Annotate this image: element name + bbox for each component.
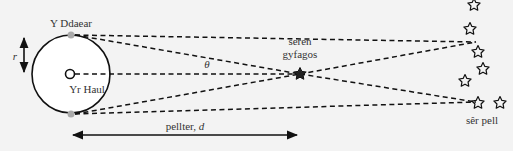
- distant-stars-label: sêr pell: [466, 114, 498, 126]
- nearby-star-label-line2: gyfagos: [283, 48, 318, 60]
- distant-stars: [459, 0, 506, 108]
- sun-label: Yr Haul: [69, 83, 105, 95]
- earth-label: Y Ddaear: [50, 17, 92, 29]
- sun-icon: [66, 70, 75, 79]
- star-icon: [472, 46, 484, 58]
- sight-lines: [75, 35, 476, 114]
- nearby-star-icon: [294, 68, 306, 80]
- nearby-star-label-line1: seren: [288, 35, 312, 47]
- star-icon: [464, 23, 476, 35]
- distance-word: pellter,: [166, 120, 199, 132]
- earth-position-top: [68, 32, 75, 39]
- star-icon: [459, 75, 471, 87]
- earth-position-bottom: [68, 111, 75, 118]
- star-icon: [472, 97, 484, 109]
- parallax-diagram: Y Ddaear Yr Haul r θ seren gyfagos sêr p…: [0, 0, 513, 151]
- angle-label: θ: [204, 58, 210, 70]
- star-icon: [477, 63, 489, 75]
- star-icon: [494, 97, 506, 109]
- star-icon: [468, 0, 480, 10]
- distance-symbol: d: [199, 120, 205, 132]
- distance-label: pellter, d: [166, 120, 205, 132]
- radius-label: r: [13, 50, 18, 62]
